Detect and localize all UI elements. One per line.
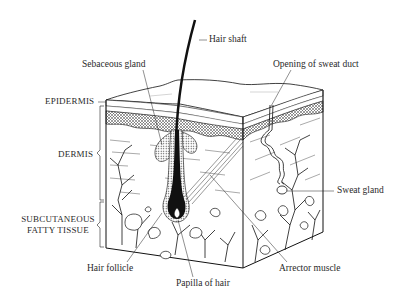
label-papilla-of-hair: Papilla of hair <box>176 279 230 289</box>
skin-diagram: Hair shaft Sebaceous gland Opening of sw… <box>0 0 405 303</box>
label-subcutaneous-line1: SUBCUTANEOUS <box>17 215 99 224</box>
label-arrector-muscle: Arrector muscle <box>279 264 340 274</box>
label-dermis: DERMIS <box>58 150 93 159</box>
label-subcutaneous-line2: FATTY TISSUE <box>17 226 99 235</box>
label-hair-follicle: Hair follicle <box>87 264 133 274</box>
blood-vessels <box>110 135 320 262</box>
label-opening-of-sweat-duct: Opening of sweat duct <box>273 60 359 70</box>
leader-lines <box>98 40 334 277</box>
label-sweat-gland: Sweat gland <box>337 186 384 196</box>
label-hair-shaft: Hair shaft <box>209 35 247 45</box>
label-sebaceous-gland: Sebaceous gland <box>82 60 146 70</box>
sweat-gland-coil <box>277 186 287 194</box>
fat-lobules <box>125 196 314 258</box>
label-epidermis: EPIDERMIS <box>45 97 94 106</box>
